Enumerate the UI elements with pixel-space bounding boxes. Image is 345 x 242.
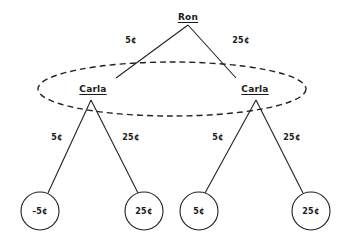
node-label-carla-left: Carla (79, 84, 106, 94)
edge-label-carla-left-right: 25¢ (122, 133, 139, 142)
edge-label-carla-left-left: 5¢ (51, 133, 63, 142)
leaf-payoff-4: 25¢ (302, 207, 319, 216)
edge-label-root-left: 5¢ (125, 36, 137, 45)
leaf-payoff-3: 5¢ (193, 207, 205, 216)
node-label-ron: Ron (178, 12, 198, 22)
edge-root-to-carla-left (116, 25, 188, 78)
game-tree-graphic (0, 0, 345, 242)
node-label-carla-right: Carla (241, 84, 268, 94)
diagram-canvas: Ron Carla Carla 5¢ 25¢ 5¢ 25¢ 5¢ 25¢ –5¢… (0, 0, 345, 242)
leaf-payoff-1: –5¢ (32, 207, 48, 216)
edge-label-carla-right-left: 5¢ (212, 133, 224, 142)
leaf-payoff-2: 25¢ (135, 207, 152, 216)
edge-carla-left-to-leaf-2 (91, 100, 138, 193)
edge-carla-right-to-leaf-4 (256, 100, 303, 193)
edge-label-root-right: 25¢ (232, 36, 249, 45)
edge-root-to-carla-right (188, 25, 236, 78)
edge-carla-left-to-leaf-1 (48, 100, 91, 193)
edge-label-carla-right-right: 25¢ (283, 133, 300, 142)
